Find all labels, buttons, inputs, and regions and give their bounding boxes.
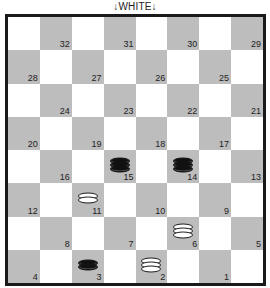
light-square <box>199 17 231 50</box>
square-12[interactable]: 12 <box>8 183 40 216</box>
black-king-piece[interactable] <box>173 157 193 172</box>
white-man-piece[interactable] <box>78 193 98 204</box>
light-square <box>104 250 136 283</box>
square-17[interactable]: 17 <box>199 117 231 150</box>
white-king-piece[interactable] <box>173 224 193 239</box>
light-square <box>40 250 72 283</box>
square-18[interactable]: 18 <box>136 117 168 150</box>
square-1[interactable]: 1 <box>199 250 231 283</box>
square-number: 26 <box>155 73 165 83</box>
light-square <box>104 183 136 216</box>
light-square <box>104 50 136 83</box>
square-number: 16 <box>60 172 70 182</box>
piece-disc <box>78 263 98 270</box>
square-number: 21 <box>251 106 261 116</box>
light-square <box>167 250 199 283</box>
square-5[interactable]: 5 <box>231 217 263 250</box>
square-24[interactable]: 24 <box>40 84 72 117</box>
square-number: 5 <box>256 239 261 249</box>
light-square <box>231 183 263 216</box>
square-6[interactable]: 6 <box>167 217 199 250</box>
square-number: 15 <box>123 172 133 182</box>
square-number: 6 <box>192 239 197 249</box>
light-square <box>40 183 72 216</box>
square-number: 8 <box>65 239 70 249</box>
square-number: 29 <box>251 39 261 49</box>
square-number: 1 <box>224 272 229 282</box>
light-square <box>199 150 231 183</box>
square-8[interactable]: 8 <box>40 217 72 250</box>
square-30[interactable]: 30 <box>167 17 199 50</box>
square-number: 31 <box>123 39 133 49</box>
square-13[interactable]: 13 <box>231 150 263 183</box>
square-27[interactable]: 27 <box>72 50 104 83</box>
light-square <box>72 84 104 117</box>
square-number: 30 <box>187 39 197 49</box>
square-23[interactable]: 23 <box>104 84 136 117</box>
square-22[interactable]: 22 <box>167 84 199 117</box>
side-label-white: ↓WHITE↓ <box>0 1 270 12</box>
square-number: 32 <box>60 39 70 49</box>
light-square <box>104 117 136 150</box>
square-number: 11 <box>92 206 101 216</box>
light-square <box>231 250 263 283</box>
square-26[interactable]: 26 <box>136 50 168 83</box>
square-number: 27 <box>92 73 102 83</box>
square-20[interactable]: 20 <box>8 117 40 150</box>
square-number: 13 <box>251 172 261 182</box>
square-14[interactable]: 14 <box>167 150 199 183</box>
light-square <box>136 17 168 50</box>
light-square <box>40 50 72 83</box>
square-number: 24 <box>60 106 70 116</box>
square-21[interactable]: 21 <box>231 84 263 117</box>
square-2[interactable]: 2 <box>136 250 168 283</box>
light-square <box>8 84 40 117</box>
light-square <box>199 217 231 250</box>
square-28[interactable]: 28 <box>8 50 40 83</box>
light-square <box>72 17 104 50</box>
light-square <box>136 84 168 117</box>
square-29[interactable]: 29 <box>231 17 263 50</box>
light-square <box>8 150 40 183</box>
light-square <box>167 117 199 150</box>
square-19[interactable]: 19 <box>72 117 104 150</box>
light-square <box>167 183 199 216</box>
square-16[interactable]: 16 <box>40 150 72 183</box>
square-7[interactable]: 7 <box>104 217 136 250</box>
piece-disc <box>173 232 193 239</box>
square-number: 7 <box>128 239 133 249</box>
square-number: 20 <box>28 139 38 149</box>
light-square <box>231 50 263 83</box>
square-number: 25 <box>219 73 229 83</box>
light-square <box>40 117 72 150</box>
square-number: 14 <box>187 172 197 182</box>
square-number: 3 <box>97 272 102 282</box>
black-man-piece[interactable] <box>78 259 98 270</box>
light-square <box>199 84 231 117</box>
piece-disc <box>78 197 98 204</box>
piece-disc <box>141 265 161 272</box>
light-square <box>72 150 104 183</box>
square-32[interactable]: 32 <box>40 17 72 50</box>
light-square <box>167 50 199 83</box>
square-25[interactable]: 25 <box>199 50 231 83</box>
square-4[interactable]: 4 <box>8 250 40 283</box>
square-number: 18 <box>155 139 165 149</box>
light-square <box>8 217 40 250</box>
light-square <box>231 117 263 150</box>
light-square <box>136 217 168 250</box>
square-number: 12 <box>28 206 38 216</box>
square-number: 9 <box>224 206 229 216</box>
square-number: 28 <box>28 73 38 83</box>
square-number: 4 <box>33 272 38 282</box>
square-3[interactable]: 3 <box>72 250 104 283</box>
light-square <box>136 150 168 183</box>
black-king-piece[interactable] <box>110 157 130 172</box>
square-15[interactable]: 15 <box>104 150 136 183</box>
square-9[interactable]: 9 <box>199 183 231 216</box>
square-11[interactable]: 11 <box>72 183 104 216</box>
square-31[interactable]: 31 <box>104 17 136 50</box>
square-10[interactable]: 10 <box>136 183 168 216</box>
light-square <box>72 217 104 250</box>
white-king-piece[interactable] <box>141 257 161 272</box>
